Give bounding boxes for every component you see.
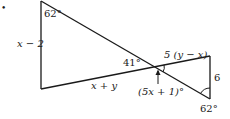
label-angle-intersection: (5x + 1)° [138,86,184,97]
label-side-bottom-left: x + y [91,80,117,91]
geometry-diagram: • 62° x − 2 41° x + y 5 (y − x) 6 (5x + … [0,0,230,119]
label-side-top-right: 5 (y − x) [164,49,207,60]
bullet-marker: • [1,3,6,13]
label-side-left: x − 2 [17,38,44,49]
angle-arc-bottom-right [201,88,211,94]
label-angle-bottom-right: 62° [200,103,218,114]
label-angle-top-left: 62° [44,8,62,19]
label-side-right: 6 [214,72,220,83]
label-angle-41: 41° [123,57,141,68]
angle-arc-intersection [163,65,164,72]
